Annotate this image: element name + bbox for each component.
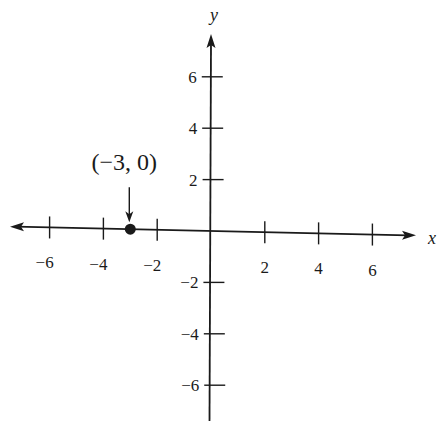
x-tick-label: 6: [368, 261, 377, 280]
y-axis-line: [210, 42, 212, 421]
point-marker: [125, 224, 136, 235]
x-tick-label: −4: [89, 255, 108, 274]
y-tick-label: −6: [181, 376, 199, 395]
y-tick-label: 6: [188, 68, 197, 87]
y-tick-label: −2: [180, 273, 198, 292]
x-tick-label: −6: [36, 253, 54, 272]
y-tick-label: 2: [189, 171, 198, 190]
x-tick-label: 4: [314, 259, 323, 278]
x-tick-label: −2: [143, 256, 161, 275]
x-tick-label: 2: [261, 258, 270, 277]
x-axis-line: [16, 227, 408, 236]
y-axis-label: y: [208, 5, 218, 25]
axes: [10, 34, 416, 421]
data-points: (−3, 0): [92, 149, 158, 235]
coordinate-plane: −6−4−2246642−2−4−6 (−3, 0) x y: [0, 0, 444, 425]
y-tick-label: 4: [189, 119, 198, 138]
x-axis-label: x: [427, 228, 436, 248]
point-label: (−3, 0): [92, 149, 158, 175]
y-tick-label: −4: [181, 325, 200, 344]
